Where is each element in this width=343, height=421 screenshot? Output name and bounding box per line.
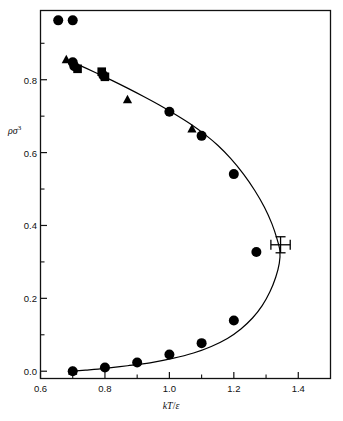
data-point-circle xyxy=(197,131,207,141)
x-tick-label: 0.6 xyxy=(34,383,47,394)
data-point-circle xyxy=(53,15,63,25)
y-axis-title-exponent: 3 xyxy=(18,124,22,132)
data-point-square xyxy=(101,73,110,82)
data-point-circle xyxy=(251,247,261,257)
data-point-square xyxy=(73,65,82,74)
x-axis-title: kT/ε xyxy=(163,400,180,411)
x-tick-label: 0.8 xyxy=(98,383,111,394)
y-tick-label: 0.8 xyxy=(13,74,37,85)
data-point-circle xyxy=(229,169,239,179)
x-tick-label: 1.2 xyxy=(227,383,240,394)
y-axis-title: ρσ3 xyxy=(8,124,21,136)
y-tick-label: 0.2 xyxy=(13,293,37,304)
data-point-circle xyxy=(164,349,174,359)
y-tick-label: 0.4 xyxy=(13,220,37,231)
x-tick-label: 1.0 xyxy=(163,383,176,394)
data-point-circle xyxy=(229,316,239,326)
x-axis-title-epsilon: ε xyxy=(175,400,179,411)
coexistence-curve-figure: 0.60.81.01.21.4 0.00.20.40.60.8 kT/ε ρσ3 xyxy=(0,0,343,421)
data-point-circle xyxy=(68,15,78,25)
x-tick-label: 1.4 xyxy=(292,383,305,394)
x-axis-title-symbol: kT xyxy=(163,400,173,411)
chart-canvas xyxy=(0,0,343,421)
y-axis-title-symbol: ρσ xyxy=(8,125,18,136)
data-point-circle xyxy=(132,357,142,367)
data-point-circle xyxy=(197,338,207,348)
y-tick-label: 0.6 xyxy=(13,147,37,158)
y-tick-label: 0.0 xyxy=(13,366,37,377)
data-point-circle xyxy=(100,363,110,373)
data-point-circle xyxy=(164,107,174,117)
